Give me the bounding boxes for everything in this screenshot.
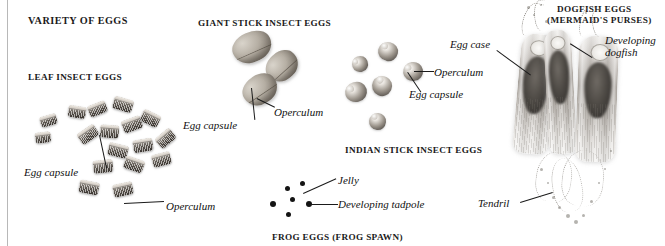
section-heading-frog-eggs: FROG EGGS (FROG SPAWN) bbox=[272, 232, 403, 243]
leader-frog-developing-tadpole bbox=[310, 204, 338, 205]
callout-frog-jelly: Jelly bbox=[338, 174, 359, 187]
leader-indian-operculum bbox=[414, 71, 434, 72]
leader-frog-jelly bbox=[303, 178, 336, 194]
callout-giant-egg-capsule: Egg capsule bbox=[183, 119, 237, 132]
callout-frog-developing-tadpole: Developing tadpole bbox=[338, 198, 424, 211]
dogfish-egg-case-mid bbox=[543, 29, 577, 154]
section-heading-indian-stick-insect-eggs: INDIAN STICK INSECT EGGS bbox=[345, 145, 482, 156]
callout-leaf-egg-capsule: Egg capsule bbox=[24, 166, 78, 179]
callout-giant-operculum: Operculum bbox=[274, 106, 323, 119]
callout-dogfish-egg-case: Egg case bbox=[450, 38, 490, 51]
callout-leaf-operculum: Operculum bbox=[166, 200, 215, 213]
plate-canvas: VARIETY OF EGGS LEAF INSECT EGGS GIANT S… bbox=[0, 0, 665, 246]
section-heading-leaf-insect-eggs: LEAF INSECT EGGS bbox=[28, 72, 122, 83]
left-margin-rule bbox=[7, 0, 8, 246]
callout-indian-operculum: Operculum bbox=[434, 66, 483, 79]
section-heading-giant-stick-insect-eggs: GIANT STICK INSECT EGGS bbox=[198, 18, 331, 29]
callout-dogfish-tendril: Tendril bbox=[478, 197, 509, 210]
callout-developing-dogfish-line2: dogfish bbox=[605, 46, 637, 59]
leader-leaf-operculum bbox=[124, 201, 164, 204]
callout-indian-egg-capsule: Egg capsule bbox=[409, 88, 463, 101]
callout-developing-dogfish-line1: Developing bbox=[605, 34, 656, 47]
page-title: VARIETY OF EGGS bbox=[28, 15, 128, 26]
